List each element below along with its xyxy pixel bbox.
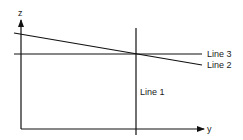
- line-1-label: Line 1: [140, 87, 165, 97]
- line-2-label: Line 2: [207, 60, 232, 70]
- z-axis-label: z: [18, 8, 23, 18]
- line-2: [14, 33, 202, 65]
- line-diagram: z y Line 3 Line 2 Line 1: [0, 0, 243, 140]
- y-axis-label: y: [207, 124, 212, 134]
- line-3-label: Line 3: [207, 49, 232, 59]
